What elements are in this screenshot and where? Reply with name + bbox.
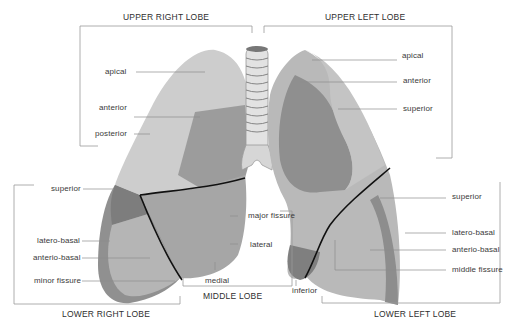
- label-lr-latero-basal: latero-basal: [37, 236, 80, 246]
- label-m-major-fissure: major fissure: [248, 211, 295, 221]
- label-m-inferior: inferior: [292, 286, 317, 296]
- label-ul-superior: superior: [403, 104, 433, 114]
- label-lr-minor-fissure: minor fissure: [34, 276, 81, 286]
- label-ur-anterior: anterior: [99, 103, 127, 113]
- lower-right-lobe-title: LOWER RIGHT LOBE: [62, 309, 150, 319]
- label-ll-superior: superior: [452, 192, 482, 202]
- lower-left-lobe-title: LOWER LEFT LOBE: [374, 309, 456, 319]
- label-m-lateral: lateral: [250, 240, 273, 250]
- label-m-medial: medial: [205, 276, 229, 286]
- upper-left-lobe-title: UPPER LEFT LOBE: [325, 12, 405, 22]
- label-ul-anterior: anterior: [403, 76, 431, 86]
- upper-right-lobe-title: UPPER RIGHT LOBE: [123, 12, 209, 22]
- label-ll-anterio-basal: anterio-basal: [452, 245, 500, 255]
- label-ur-apical: apical: [105, 67, 127, 77]
- label-ll-middle-fissure: middle fissure: [452, 265, 503, 275]
- trachea: [242, 46, 273, 170]
- label-ul-apical: apical: [402, 51, 424, 61]
- lung-diagram: UPPER RIGHT LOBE UPPER LEFT LOBE MIDDLE …: [0, 0, 516, 325]
- label-lr-superior: superior: [51, 184, 81, 194]
- middle-lobe-title: MIDDLE LOBE: [203, 291, 262, 301]
- left-lung: [268, 50, 400, 305]
- right-lung: [95, 45, 255, 307]
- label-ll-latero-basal: latero-basal: [452, 228, 495, 238]
- label-ur-posterior: posterior: [95, 129, 127, 139]
- label-lr-anterio-basal: anterio-basal: [33, 253, 81, 263]
